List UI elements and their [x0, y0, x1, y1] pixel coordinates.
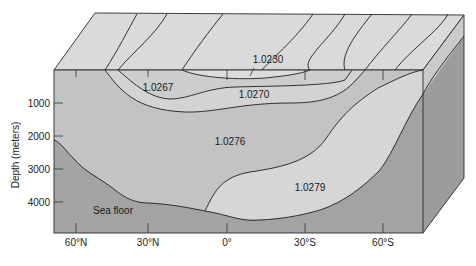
- lat-tick-30s: 30°S: [294, 237, 316, 248]
- lat-tick-60n: 60°N: [65, 237, 87, 248]
- density-label-1-0279: 1.0279: [295, 182, 326, 193]
- lat-tick-0: 0°: [222, 237, 232, 248]
- ocean-density-diagram: 1000 2000 3000 4000 Depth (meters) 60°N …: [0, 0, 476, 266]
- depth-tick-1000: 1000: [28, 98, 51, 109]
- lat-tick-60s: 60°S: [372, 237, 394, 248]
- density-label-1-0230: 1.0230: [253, 54, 284, 65]
- depth-tick-2000: 2000: [28, 131, 51, 142]
- depth-tick-3000: 3000: [28, 164, 51, 175]
- density-label-1-0276: 1.0276: [215, 136, 246, 147]
- density-label-1-0267: 1.0267: [143, 82, 174, 93]
- y-axis-title: Depth (meters): [10, 122, 21, 189]
- lat-tick-30n: 30°N: [137, 237, 159, 248]
- depth-tick-4000: 4000: [28, 197, 51, 208]
- density-label-1-0270: 1.0270: [239, 89, 270, 100]
- sea-floor-label: Sea floor: [93, 205, 134, 216]
